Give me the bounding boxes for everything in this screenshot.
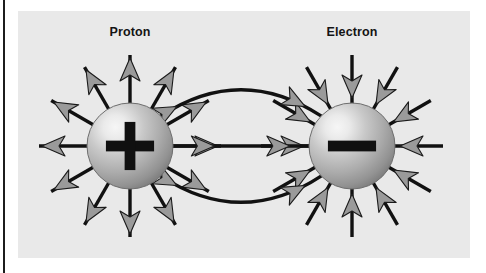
electron-symbol-horizontal-bar bbox=[328, 141, 376, 152]
electron-label: Electron bbox=[327, 25, 378, 39]
proton-label: Proton bbox=[110, 25, 151, 39]
proton-symbol-vertical-bar bbox=[125, 122, 136, 170]
figure-root: Proton Electron bbox=[0, 0, 486, 273]
left-margin-rule bbox=[3, 0, 5, 273]
field-diagram-svg: Proton Electron bbox=[0, 0, 486, 273]
